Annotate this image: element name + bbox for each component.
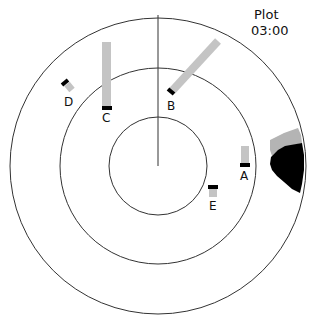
target-d-label: D: [64, 95, 73, 109]
target-d[interactable]: D: [62, 80, 73, 109]
target-b-label: B: [167, 99, 175, 113]
target-c[interactable]: C: [102, 42, 112, 125]
target-d-trail: [67, 84, 72, 90]
target-a-trail: [241, 146, 249, 163]
plot-time: 03:00: [251, 23, 288, 38]
target-c-echo: [102, 106, 112, 110]
target-e-echo: [208, 185, 218, 189]
target-b[interactable]: B: [167, 41, 218, 113]
plot-title: Plot: [254, 7, 279, 22]
target-a[interactable]: A: [240, 146, 250, 183]
target-c-label: C: [102, 111, 110, 125]
target-a-label: A: [240, 169, 249, 183]
target-c-trail: [102, 42, 111, 106]
target-a-echo: [240, 163, 250, 167]
target-e-label: E: [209, 199, 217, 213]
radar-plot: A B C D E Plot 03:00: [0, 0, 313, 327]
land-echo: [270, 128, 304, 193]
target-e-trail: [209, 189, 217, 197]
target-e[interactable]: E: [208, 185, 218, 213]
